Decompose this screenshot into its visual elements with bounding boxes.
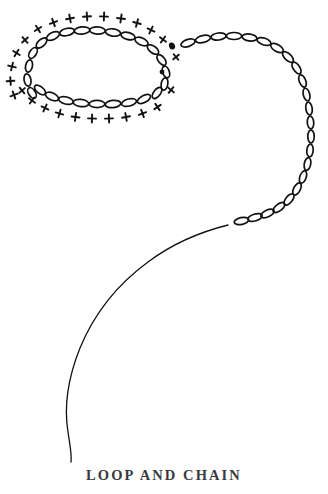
figure-plate: LOOP AND CHAIN <box>0 0 328 494</box>
crossing-dot <box>160 70 165 75</box>
caption-block: LOOP AND CHAIN <box>0 466 328 484</box>
loop-and-chain-flourish-illustration <box>0 0 328 494</box>
plate-caption: LOOP AND CHAIN <box>86 466 242 484</box>
